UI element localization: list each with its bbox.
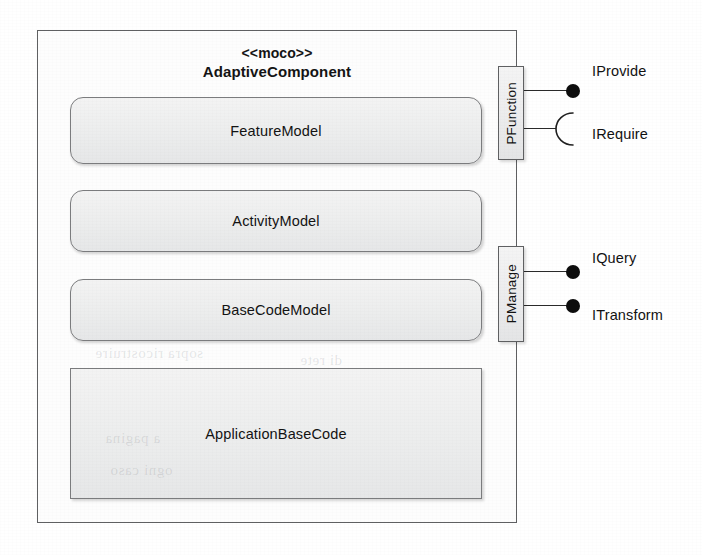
- inner-box-label: ApplicationBaseCode: [205, 426, 347, 442]
- inner-box-feature-model[interactable]: FeatureModel: [70, 97, 482, 164]
- interface-label-irequire: IRequire: [592, 126, 648, 142]
- connector-line-itransform: [524, 305, 569, 306]
- provided-interface-ball-icon: [566, 84, 580, 98]
- port-pmanage[interactable]: PManage: [498, 246, 524, 342]
- component-name: AdaptiveComponent: [37, 62, 517, 82]
- port-pfunction[interactable]: PFunction: [498, 66, 524, 160]
- interface-label-iquery: IQuery: [592, 250, 636, 266]
- inner-box-activity-model[interactable]: ActivityModel: [70, 190, 482, 252]
- inner-box-label: ActivityModel: [232, 213, 319, 229]
- component-header: <<moco>> AdaptiveComponent: [37, 44, 517, 82]
- component-diagram: sopra ricostruire di rete a pagina ogni …: [0, 0, 702, 555]
- provided-interface-ball-icon: [566, 299, 580, 313]
- connector-line-iquery: [524, 271, 569, 272]
- interface-label-iprovide: IProvide: [592, 63, 646, 79]
- interface-label-itransform: ITransform: [592, 307, 663, 323]
- port-label: PManage: [504, 264, 519, 323]
- port-label: PFunction: [504, 82, 519, 145]
- inner-box-label: FeatureModel: [230, 123, 321, 139]
- inner-box-base-code-model[interactable]: BaseCodeModel: [70, 279, 482, 341]
- connector-line-iprovide: [524, 90, 569, 91]
- component-stereotype: <<moco>>: [37, 44, 517, 62]
- inner-box-label: BaseCodeModel: [221, 302, 330, 318]
- provided-interface-ball-icon: [566, 265, 580, 279]
- inner-box-application-base-code[interactable]: ApplicationBaseCode: [70, 368, 482, 499]
- required-interface-socket-icon: [551, 110, 587, 148]
